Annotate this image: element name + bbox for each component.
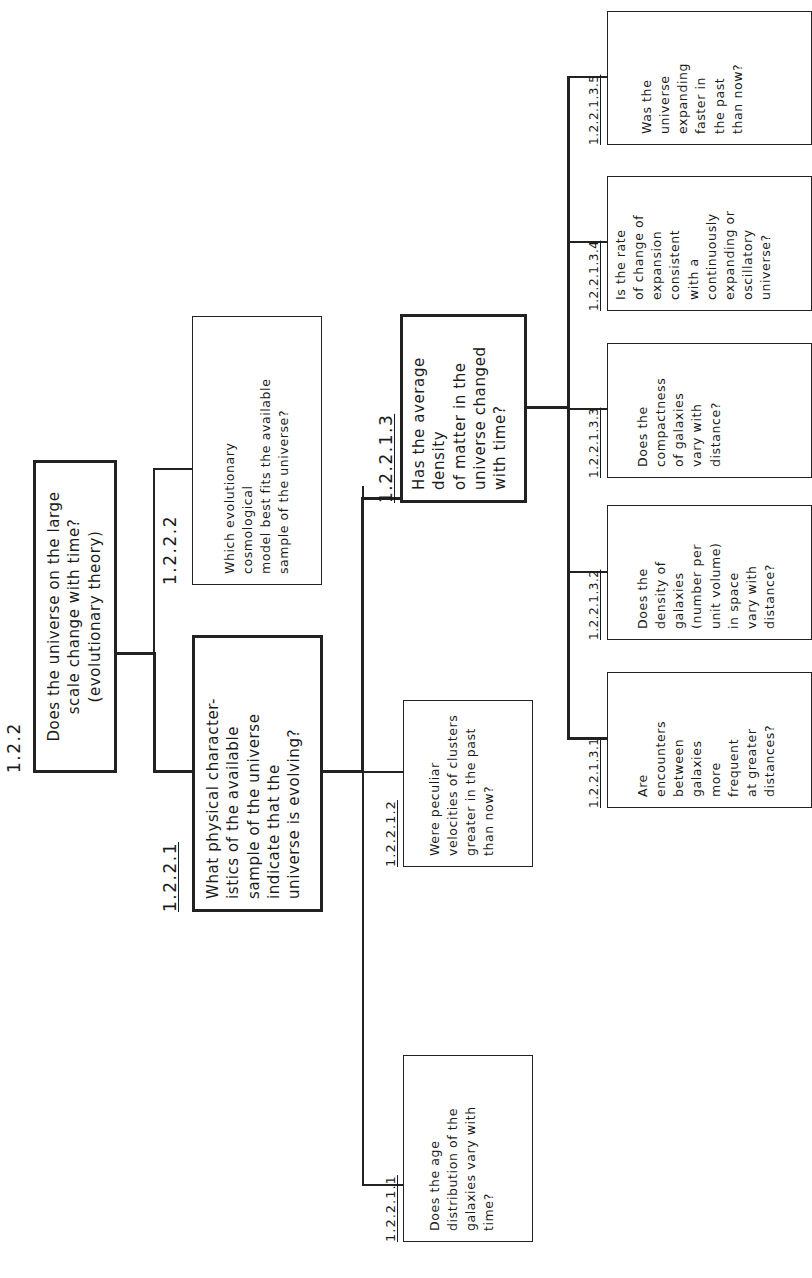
node-text-line: universe?	[757, 187, 775, 300]
node-text-line: encounters	[652, 683, 670, 797]
node-text-line: frequent	[725, 683, 743, 797]
node-text-line: with a	[685, 187, 703, 300]
node-1-2-2-1-3-4: Is the rate of change of expansion consi…	[607, 176, 812, 311]
node-text-line: distances?	[761, 683, 779, 797]
node-text-line: Are	[634, 683, 652, 797]
node-1-2-2-1-3-3: Does the compactness of galaxies vary wi…	[607, 343, 812, 478]
node-id-1-2-2-1-1: 1.2.2.1.1	[383, 1175, 398, 1242]
node-1-2-2-2: Which evolutionary cosmological model be…	[192, 316, 322, 585]
node-id-1-2-2-2: 1.2.2.2	[160, 515, 180, 585]
node-text-line: distance?	[707, 354, 725, 467]
node-text-line: continuously	[703, 187, 721, 300]
node-text-line: expanding or	[721, 187, 739, 300]
node-id-1-2-2-1-3: 1.2.2.1.3	[376, 414, 396, 503]
node-text-line: indicate that the	[264, 648, 284, 899]
node-1-2-2-1-3-5: Was the universe expanding faster in the…	[607, 11, 812, 145]
node-text-line: (evolutionary theory)	[85, 473, 105, 760]
node-text-line: What physical character-	[203, 648, 223, 899]
node-text-line: time?	[480, 1066, 498, 1231]
node-text-line: with time?	[490, 327, 510, 490]
node-text-line: (number per	[688, 516, 706, 629]
node-text-line: of change of	[630, 187, 648, 300]
node-1-2-2: Does the universe on the large scale cha…	[33, 460, 117, 773]
node-text-line: model best fits the available	[257, 327, 275, 574]
node-text-line: Does the	[634, 516, 652, 629]
node-id-1-2-2-1-3-3: 1.2.2.1.3.3	[587, 408, 601, 478]
node-text-line: vary with	[688, 354, 706, 467]
node-1-2-2-1-3: Has the average density of matter in the…	[400, 314, 527, 503]
node-text-line: the past	[711, 22, 729, 134]
connector	[153, 770, 193, 773]
node-text-line: distance?	[761, 516, 779, 629]
node-text-line: velocities of clusters	[444, 711, 462, 856]
node-text-line: compactness	[652, 354, 670, 467]
node-text-line: at greater	[743, 683, 761, 797]
node-text-line: Has the average	[409, 327, 429, 490]
node-text-line: istics of the available	[223, 648, 243, 899]
connector	[323, 770, 363, 773]
node-text-line: galaxies	[688, 683, 706, 797]
node-text-line: unit volume)	[707, 516, 725, 629]
node-text-line: faster in	[692, 22, 710, 134]
node-text-line: more	[707, 683, 725, 797]
node-text-line: Were peculiar	[426, 711, 444, 856]
node-text-line: Is the rate	[612, 187, 630, 300]
node-text-line: cosmological	[239, 327, 257, 574]
connector	[117, 652, 154, 655]
node-text-line: consistent	[666, 187, 684, 300]
node-text-line: universe	[656, 22, 674, 134]
node-1-2-2-1: What physical character- istics of the a…	[192, 635, 323, 912]
connector	[362, 772, 404, 774]
node-text-line: than now?	[729, 22, 747, 134]
node-text-line: of matter in the	[450, 327, 470, 490]
node-text-line: between	[670, 683, 688, 797]
connector	[153, 652, 156, 773]
node-id-1-2-2-1: 1.2.2.1	[160, 842, 180, 912]
node-text-line: in space	[725, 516, 743, 629]
node-text-line: universe is evolving?	[284, 648, 304, 899]
node-text-line: oscillatory	[739, 187, 757, 300]
connector	[153, 469, 155, 653]
node-text-line: greater in the past	[462, 711, 480, 856]
connector	[527, 406, 569, 409]
node-id-1-2-2: 1.2.2	[4, 722, 24, 773]
node-text-line: of galaxies	[670, 354, 688, 467]
node-1-2-2-1-2: Were peculiar velocities of clusters gre…	[403, 700, 533, 867]
node-text-line: Does the age	[426, 1066, 444, 1231]
connector	[361, 498, 364, 773]
node-text-line: sample of the universe	[244, 648, 264, 899]
node-text-line: Does the	[634, 354, 652, 467]
node-text-line: expanding	[674, 22, 692, 134]
node-text-line: galaxies	[670, 516, 688, 629]
node-text-line: density	[429, 327, 449, 490]
question-tree-diagram: 1.2.2 Does the universe on the large sca…	[0, 0, 812, 1278]
node-text-line: density of	[652, 516, 670, 629]
node-text-line: vary with	[743, 516, 761, 629]
node-1-2-2-1-1: Does the age distribution of the galaxie…	[403, 1055, 533, 1242]
node-text-line: distribution of the	[444, 1066, 462, 1231]
node-text-line: than now?	[480, 711, 498, 856]
node-text-line: Which evolutionary	[221, 327, 239, 574]
node-text-line: expansion	[648, 187, 666, 300]
node-id-1-2-2-1-3-2: 1.2.2.1.3.2	[587, 570, 601, 640]
node-id-1-2-2-1-2: 1.2.2.1.2	[383, 800, 398, 867]
connector	[153, 469, 193, 471]
node-id-1-2-2-1-3-1: 1.2.2.1.3.1	[587, 738, 601, 808]
node-text-line: Does the universe on the large	[44, 473, 64, 760]
node-text-line: galaxies vary with	[462, 1066, 480, 1231]
node-text-line: Was the	[638, 22, 656, 134]
node-id-1-2-2-1-3-4: 1.2.2.1.3.4	[587, 241, 601, 311]
node-1-2-2-1-3-1: Are encounters between galaxies more fre…	[607, 672, 812, 808]
node-id-1-2-2-1-3-5: 1.2.2.1.3.5	[587, 75, 601, 145]
node-text-line: sample of the universe?	[275, 327, 293, 574]
node-text-line: universe changed	[470, 327, 490, 490]
node-text-line: scale change with time?	[64, 473, 84, 760]
node-1-2-2-1-3-2: Does the density of galaxies (number per…	[607, 505, 812, 640]
